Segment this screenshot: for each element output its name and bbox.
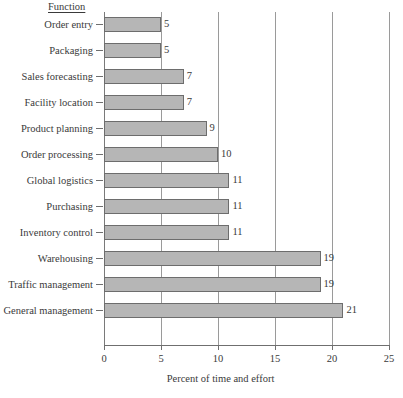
category-tick-dash <box>96 284 103 285</box>
category-label: Purchasing <box>0 199 93 214</box>
x-tick-label-10: 10 <box>213 352 224 365</box>
bar-row <box>104 168 389 194</box>
x-axis-title-text: Percent of time and effort <box>167 373 275 384</box>
x-tick-mark-10 <box>218 345 219 350</box>
x-tick-label-20: 20 <box>327 352 338 365</box>
category-tick-dash <box>96 310 103 311</box>
bar <box>104 225 229 240</box>
category-label: Global logistics <box>0 173 93 188</box>
bar-row <box>104 194 389 220</box>
bar-value-label: 5 <box>164 16 169 32</box>
bar-row <box>104 64 389 90</box>
category-label: General management <box>0 303 93 318</box>
bar <box>104 251 321 266</box>
x-tick-label-0: 0 <box>101 352 106 365</box>
bar-row <box>104 142 389 168</box>
bar-value-label: 5 <box>164 42 169 58</box>
bar <box>104 277 321 292</box>
bar <box>104 121 207 136</box>
bar-value-label: 19 <box>324 250 335 266</box>
x-tick-mark-15 <box>275 345 276 350</box>
bar-row <box>104 272 389 298</box>
x-tick-label-25: 25 <box>384 352 395 365</box>
bar <box>104 17 161 32</box>
bar-row <box>104 220 389 246</box>
bar-value-label: 10 <box>221 146 232 162</box>
category-tick-dash <box>96 258 103 259</box>
x-tick-mark-0 <box>104 345 105 350</box>
category-label: Warehousing <box>0 251 93 266</box>
x-tick-label-5: 5 <box>158 352 163 365</box>
plot-area <box>104 12 389 345</box>
x-tick-label-15: 15 <box>270 352 281 365</box>
category-label: Product planning <box>0 121 93 136</box>
bar-row <box>104 90 389 116</box>
bar <box>104 95 184 110</box>
bar <box>104 69 184 84</box>
bar-value-label: 7 <box>187 68 192 84</box>
category-tick-dash <box>96 154 103 155</box>
bar-row <box>104 116 389 142</box>
category-tick-dash <box>96 128 103 129</box>
x-tick-mark-5 <box>161 345 162 350</box>
bar-value-label: 9 <box>210 120 215 136</box>
category-tick-dash <box>96 50 103 51</box>
category-tick-dash <box>96 76 103 77</box>
category-label: Packaging <box>0 43 93 58</box>
bar-value-label: 21 <box>346 302 357 318</box>
category-label: Inventory control <box>0 225 93 240</box>
bar-row <box>104 38 389 64</box>
x-tick-mark-20 <box>332 345 333 350</box>
category-tick-dash <box>96 24 103 25</box>
bar <box>104 147 218 162</box>
bar <box>104 43 161 58</box>
bar-row <box>104 12 389 38</box>
category-label: Facility location <box>0 95 93 110</box>
category-label: Order processing <box>0 147 93 162</box>
bar-value-label: 11 <box>232 172 242 188</box>
category-label: Sales forecasting <box>0 69 93 84</box>
bar <box>104 303 343 318</box>
bar-value-label: 19 <box>324 276 335 292</box>
bar-chart: Function Order entry5Packaging5Sales for… <box>0 0 403 398</box>
bar <box>104 173 229 188</box>
category-tick-dash <box>96 180 103 181</box>
bar <box>104 199 229 214</box>
category-label: Order entry <box>0 17 93 32</box>
category-tick-dash <box>96 232 103 233</box>
x-axis-title: Percent of time and effort <box>0 373 403 384</box>
bar-value-label: 7 <box>187 94 192 110</box>
gridline-25 <box>389 12 390 345</box>
function-column-header: Function <box>48 1 85 13</box>
bar-value-label: 11 <box>232 198 242 214</box>
x-axis-line <box>104 345 389 346</box>
category-tick-dash <box>96 206 103 207</box>
bar-row <box>104 246 389 272</box>
bar-value-label: 11 <box>232 224 242 240</box>
x-tick-mark-25 <box>389 345 390 350</box>
category-label: Traffic management <box>0 277 93 292</box>
category-tick-dash <box>96 102 103 103</box>
